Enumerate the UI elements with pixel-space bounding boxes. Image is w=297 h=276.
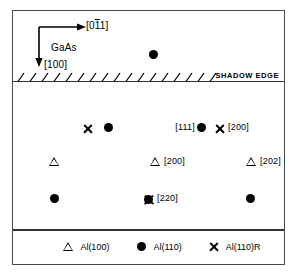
diffraction-spot (82, 122, 94, 134)
diffraction-spot (104, 122, 116, 134)
diffraction-spot: [220] (143, 193, 155, 205)
open-triangle-marker-icon (246, 157, 256, 166)
cross-marker-icon (82, 123, 93, 134)
diffraction-spot-label: [200] (228, 122, 249, 132)
filled-circle-marker-icon (149, 50, 158, 59)
filled-circle-cross-overlap-marker-icon (143, 194, 154, 205)
legend-marker-swatch (135, 241, 147, 253)
diffraction-spot: [200] (150, 156, 162, 168)
diffraction-spot-label: [220] (157, 193, 178, 203)
shadow-edge-label: SHADOW EDGE (215, 71, 279, 80)
legend-marker-swatch (62, 241, 74, 253)
material-label-gaas: GaAs (51, 43, 77, 53)
cross-marker-icon (208, 241, 219, 252)
diffraction-pattern-figure: [011] GaAs [100] (12, 10, 285, 265)
diffraction-spot-label: [111] (175, 122, 195, 132)
diffraction-spot: [202] (246, 156, 258, 168)
open-triangle-marker-icon (150, 157, 160, 166)
filled-circle-marker-icon (246, 194, 255, 203)
legend-item-label: Al(110) (153, 242, 181, 252)
filled-circle-marker-icon (104, 123, 113, 132)
diffraction-spot (49, 156, 61, 168)
diffraction-spot-label: [200] (164, 156, 185, 166)
diffraction-spot (149, 49, 161, 61)
legend-item-label: Al(100) (80, 242, 109, 252)
diffraction-spot: [200] (214, 122, 226, 134)
legend-marker-swatch (208, 241, 220, 253)
cross-marker-icon (214, 123, 225, 134)
diffraction-spot (50, 193, 62, 205)
legend-item-label: Al(110)R (226, 242, 261, 252)
filled-circle-marker-icon (137, 242, 146, 251)
filled-circle-marker-icon (197, 123, 206, 132)
diffraction-spot: [111] (197, 122, 209, 134)
legend: Al(100)Al(110)Al(110)R (13, 229, 284, 264)
open-triangle-marker-icon (63, 242, 73, 251)
open-triangle-marker-icon (49, 157, 59, 166)
filled-circle-marker-icon (50, 194, 59, 203)
legend-item: Al(100) (62, 241, 109, 253)
axis-label-horizontal: [011] (86, 21, 109, 31)
shadow-edge-boundary: SHADOW EDGE (13, 69, 284, 82)
legend-item: Al(110) (135, 241, 181, 253)
diffraction-spot-label: [202] (260, 156, 281, 166)
shadow-edge-line (13, 81, 284, 83)
diffraction-spot (246, 193, 258, 205)
legend-item: Al(110)R (208, 241, 261, 253)
